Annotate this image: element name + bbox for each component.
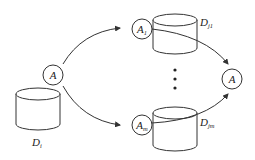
source-db-text: D <box>32 136 40 148</box>
db-jm-text: D <box>200 116 208 128</box>
target-agent-label: A <box>226 74 238 85</box>
source-agent-text: A <box>50 69 57 81</box>
edge-source-to-agent1 <box>63 28 120 64</box>
agent-m-subscript: m <box>143 125 148 132</box>
agent-m-label: Am <box>133 120 151 133</box>
source-db-subscript: i <box>40 142 42 149</box>
db-j1-subscript: j1 <box>208 22 213 29</box>
db-jm-subscript: jm <box>208 122 215 129</box>
db-jm-label: Djm <box>200 117 214 130</box>
target-agent-text: A <box>229 73 236 85</box>
database-j1-icon <box>153 14 197 54</box>
source-agent-label: A <box>47 70 59 81</box>
db-j1-label: Dj1 <box>200 17 213 30</box>
agent-1-text: A <box>137 23 144 35</box>
source-database-icon <box>16 88 60 130</box>
database-jm-icon <box>153 107 197 151</box>
edge-source-to-agentm <box>63 86 120 125</box>
agent-m-text: A <box>136 119 143 131</box>
ellipsis-dots-icon <box>173 68 176 89</box>
db-j1-text: D <box>200 16 208 28</box>
source-db-label: Di <box>32 137 42 150</box>
agent-1-label: A1 <box>134 24 150 37</box>
agent-1-subscript: 1 <box>144 29 147 36</box>
